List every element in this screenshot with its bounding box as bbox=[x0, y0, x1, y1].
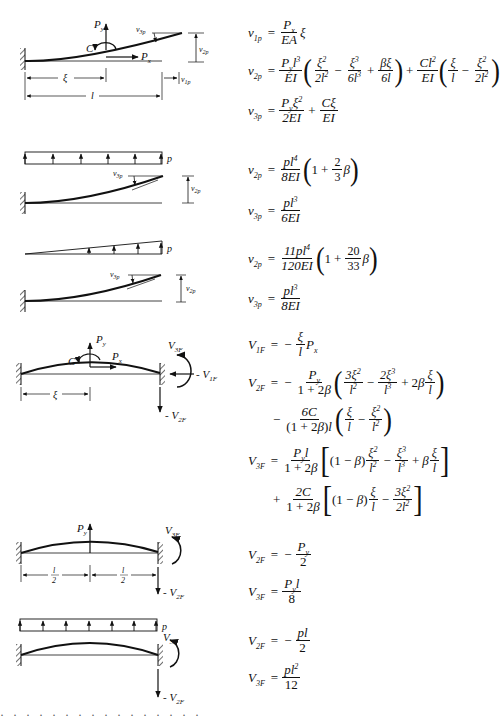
svg-text:- V2F: - V2F bbox=[163, 691, 185, 706]
equation-v3p: v3p = Pyξ22EI + CξEI bbox=[248, 96, 339, 125]
diagram-concentrated-load-fixed-fixed: Py Px C V3F - V1F - V2F ξ bbox=[0, 325, 240, 435]
equation-V2F-uniform: V2F = − pl2 bbox=[248, 626, 311, 655]
diagram-triangular-load-cantilever: p v3p v2p bbox=[0, 235, 240, 315]
svg-text:Py: Py bbox=[76, 522, 88, 537]
svg-text:ξ: ξ bbox=[63, 72, 68, 84]
equation-V2F: V2F = − Py1 + 2β ( 3ξ2l2 − 2ξ3l3 + 2β ξl… bbox=[248, 368, 444, 397]
svg-text:Py: Py bbox=[95, 333, 107, 348]
svg-text:v3p: v3p bbox=[110, 270, 120, 280]
equation-v3p-uniform: v3p = pl36EI bbox=[248, 196, 303, 225]
diagram-concentrated-load-cantilever: Py Px C v3p v2p ξ l v1p bbox=[0, 0, 240, 110]
equation-V1F: V1F = − ξl Px bbox=[248, 330, 318, 359]
diagram-midspan-load-fixed-fixed: Py V3F - V2F l2 l2 bbox=[0, 520, 240, 615]
svg-text:- V2F: - V2F bbox=[165, 409, 187, 424]
svg-text:v2p: v2p bbox=[199, 45, 209, 55]
svg-text:V3F: V3F bbox=[168, 339, 183, 354]
svg-text:2: 2 bbox=[121, 576, 125, 585]
svg-text:Py: Py bbox=[93, 18, 105, 33]
svg-text:v2p: v2p bbox=[191, 184, 201, 194]
svg-text:v2p: v2p bbox=[186, 284, 196, 294]
svg-text:- V1F: - V1F bbox=[196, 368, 218, 383]
svg-text:l: l bbox=[91, 90, 94, 101]
equation-V3F-uniform: V3F = pl212 bbox=[248, 663, 301, 692]
diagram-uniform-load-cantilever: p v3p v2p bbox=[0, 145, 240, 225]
svg-text:C: C bbox=[86, 42, 94, 54]
svg-text:- V2F: - V2F bbox=[163, 586, 185, 601]
equation-V2F-midspan: V2F = − Py2 bbox=[248, 540, 312, 569]
equation-V3F: V3F = Pyl1 + 2β [ (1 − β) ξ2l2 − ξ3l3 + … bbox=[248, 446, 449, 475]
equation-v1p: v1p = PxEA ξ bbox=[248, 18, 306, 47]
lhs: v1p bbox=[248, 25, 262, 41]
diagram-uniform-load-fixed-fixed: p V3F - V2F bbox=[0, 615, 240, 710]
fixed-support-icon bbox=[20, 48, 25, 70]
svg-text:v3p: v3p bbox=[113, 169, 123, 179]
svg-text:l: l bbox=[53, 566, 56, 575]
cut-off-text-line: · · · · · · · · · · · · · · · · bbox=[0, 708, 470, 716]
equation-v2p-triangular: v2p = 11pl4120EI ( 1 + 2033 β ) bbox=[248, 244, 378, 273]
svg-text:V3F: V3F bbox=[163, 631, 178, 646]
svg-text:v1p: v1p bbox=[181, 75, 191, 85]
equation-V2F-cont: − 6C(1 + 2β)l ( ξl − ξ2l2 ) bbox=[270, 405, 392, 434]
equation-V3F-cont: + 2C1 + 2β [ (1 − β) ξl − 3ξ22l2 ] bbox=[270, 485, 422, 514]
svg-text:2: 2 bbox=[52, 576, 56, 585]
equation-v2p: v2p = Pyl3EI ( ξ22l2 − ξ36l3 + βξ6l ) + … bbox=[248, 56, 500, 85]
svg-text:l: l bbox=[122, 566, 125, 575]
svg-text:p: p bbox=[166, 153, 172, 164]
svg-text:v3p: v3p bbox=[136, 25, 146, 35]
svg-text:p: p bbox=[166, 243, 172, 254]
svg-text:V3F: V3F bbox=[165, 524, 180, 539]
equation-v2p-uniform: v2p = pl48EI ( 1 + 23 β ) bbox=[248, 155, 359, 184]
svg-text:C: C bbox=[68, 355, 76, 367]
svg-text:Px: Px bbox=[140, 50, 152, 65]
equation-v3p-triangular: v3p = pl38EI bbox=[248, 284, 303, 313]
svg-text:ξ: ξ bbox=[53, 389, 58, 401]
equation-V3F-midspan: V3F = Pyl8 bbox=[248, 577, 302, 606]
